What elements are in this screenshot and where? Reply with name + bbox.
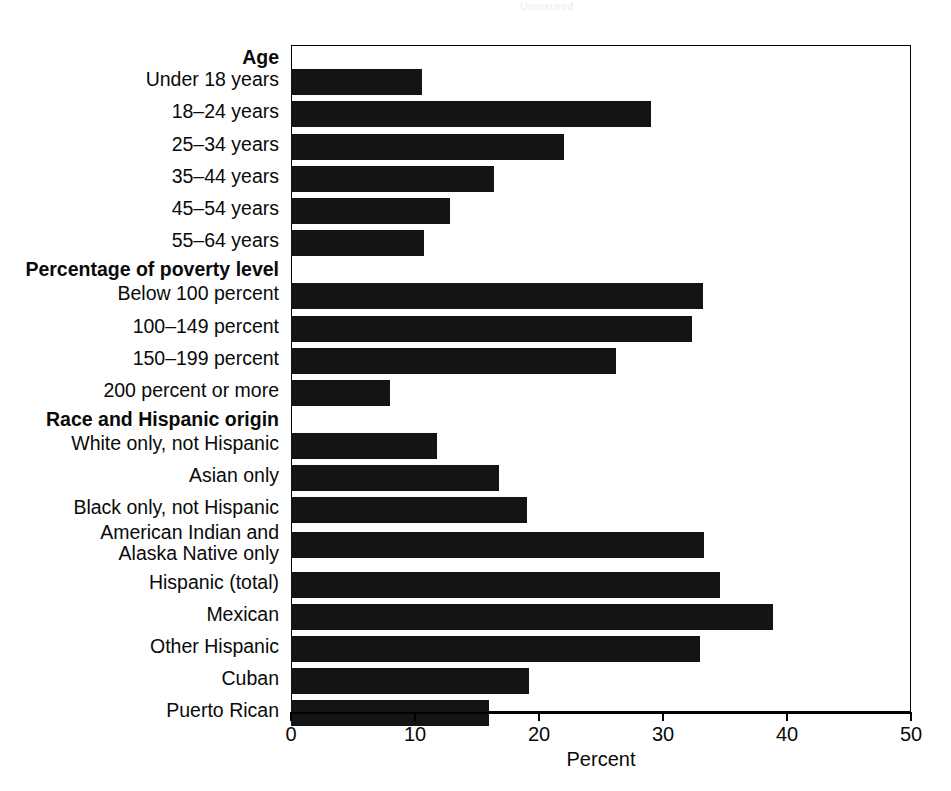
category-label: 100–149 percent (133, 316, 279, 337)
x-tick-label: 30 (652, 723, 674, 745)
bar-row (291, 604, 911, 630)
x-tick (414, 712, 416, 721)
category-label: Cuban (222, 668, 279, 689)
x-tick-label: 50 (900, 723, 922, 745)
bar-row (291, 283, 911, 309)
x-tick-label: 0 (285, 723, 296, 745)
bars-layer (291, 45, 911, 712)
category-label: Black only, not Hispanic (73, 497, 279, 518)
category-label: White only, not Hispanic (71, 433, 279, 454)
bar-row (291, 497, 911, 523)
bar (291, 572, 720, 598)
bar (291, 380, 390, 406)
category-label: American Indian and Alaska Native only (100, 522, 279, 564)
bar (291, 532, 704, 558)
bar-row (291, 230, 911, 256)
x-axis-line (291, 712, 911, 714)
category-label: 55–64 years (172, 230, 279, 251)
bar-row (291, 348, 911, 374)
bar (291, 316, 692, 342)
category-label: 150–199 percent (133, 348, 279, 369)
bar-row (291, 69, 911, 95)
group-heading-label: Percentage of poverty level (25, 259, 279, 280)
x-tick-label: 40 (776, 723, 798, 745)
bar-row (291, 380, 911, 406)
bar (291, 230, 424, 256)
category-label: Under 18 years (146, 69, 279, 90)
bar (291, 101, 651, 127)
category-label: Below 100 percent (117, 283, 279, 304)
category-label: Asian only (189, 465, 279, 486)
bar (291, 198, 450, 224)
bar (291, 134, 564, 160)
category-label: Hispanic (total) (149, 572, 279, 593)
bar (291, 668, 529, 694)
group-heading-label: Age (242, 47, 279, 68)
bar (291, 348, 616, 374)
x-tick (662, 712, 664, 721)
bar-row (291, 101, 911, 127)
bar (291, 283, 703, 309)
bar-row (291, 532, 911, 558)
category-label: 25–34 years (172, 134, 279, 155)
bar (291, 166, 494, 192)
x-tick (538, 712, 540, 721)
x-tick (290, 712, 292, 721)
bar-row (291, 198, 911, 224)
bar-row (291, 134, 911, 160)
category-labels-layer: AgeUnder 18 years18–24 years25–34 years3… (0, 45, 286, 712)
bar (291, 497, 527, 523)
group-heading-label: Race and Hispanic origin (46, 409, 279, 430)
bar-row (291, 166, 911, 192)
bar (291, 636, 700, 662)
category-label: Mexican (206, 604, 279, 625)
category-label: 35–44 years (172, 166, 279, 187)
category-label: 45–54 years (172, 198, 279, 219)
category-label: 18–24 years (172, 101, 279, 122)
bar-row (291, 433, 911, 459)
bar (291, 604, 773, 630)
x-tick (786, 712, 788, 721)
bar (291, 69, 422, 95)
bar-row (291, 316, 911, 342)
horizontal-bar-chart: AgeUnder 18 years18–24 years25–34 years3… (0, 0, 951, 791)
category-label: Other Hispanic (150, 636, 279, 657)
bar-row (291, 572, 911, 598)
bar-row (291, 465, 911, 491)
bar (291, 465, 499, 491)
x-tick (910, 712, 912, 721)
category-label: Puerto Rican (166, 700, 279, 721)
bar-row (291, 668, 911, 694)
x-tick-label: 10 (404, 723, 426, 745)
category-label: 200 percent or more (103, 380, 279, 401)
x-axis-title: Percent (291, 748, 911, 771)
bar (291, 433, 437, 459)
bar-row (291, 636, 911, 662)
x-tick-label: 20 (528, 723, 550, 745)
